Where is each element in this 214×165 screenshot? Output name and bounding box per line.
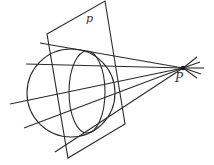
lines-through-P [10,43,183,152]
point-label: P [175,72,183,84]
plane-label: p [86,13,93,24]
line-extensions [183,57,204,78]
sphere-outline [27,49,115,137]
point-P-dot [181,66,185,70]
sphere-cross-section [69,51,105,133]
